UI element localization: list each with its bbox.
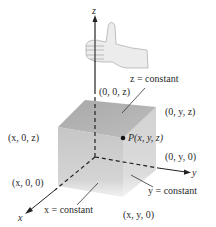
point-p-dot [121,136,126,141]
x-axis-label: x [18,213,22,223]
y-axis-label: y [192,168,196,178]
z-axis-label: z [92,6,96,16]
point-p-label: P(x, y, z) [128,133,163,143]
cube [58,100,156,197]
cube-left-face [58,127,123,197]
coordinate-diagram: z y x z = constant (0, 0, z) (0, y, z) (… [0,0,216,227]
z-constant-label: z = constant [130,74,178,84]
xy-point-label: (x, y, 0) [123,210,154,220]
x-constant-label: x = constant [44,205,93,215]
x-point-label: (x, 0, 0) [12,178,44,188]
y-point-label: (0, y, 0) [165,152,196,162]
xz-point-label: (x, 0, z) [8,133,39,143]
y-constant-label: y = constant [148,186,197,196]
yz-point-label: (0, y, z) [165,107,195,117]
origin-z-label: (0, 0, z) [99,87,130,97]
